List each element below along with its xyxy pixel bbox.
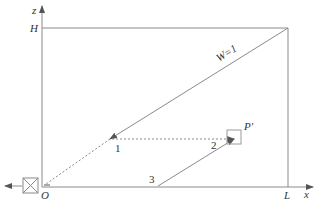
dashed-line-to-origin [46, 139, 110, 184]
diagonal-w-line [110, 28, 288, 139]
point-1-label: 1 [115, 142, 121, 154]
diagonal-label: W=1 [214, 42, 239, 64]
diagram-svg: z H O L x W=1 1 2 3 P' [0, 0, 317, 209]
line-3-to-2 [158, 139, 234, 186]
origin-box-icon [23, 178, 38, 193]
point-3-label: 3 [149, 173, 155, 185]
point-2-label: 2 [211, 139, 217, 151]
target-point-label: P' [243, 120, 254, 132]
x-axis-label: x [303, 188, 309, 200]
z-axis-label: z [31, 4, 37, 16]
diagram-canvas: z H O L x W=1 1 2 3 P' [0, 0, 317, 209]
height-label: H [29, 22, 39, 34]
length-label: L [283, 189, 290, 201]
origin-label: O [41, 189, 49, 201]
